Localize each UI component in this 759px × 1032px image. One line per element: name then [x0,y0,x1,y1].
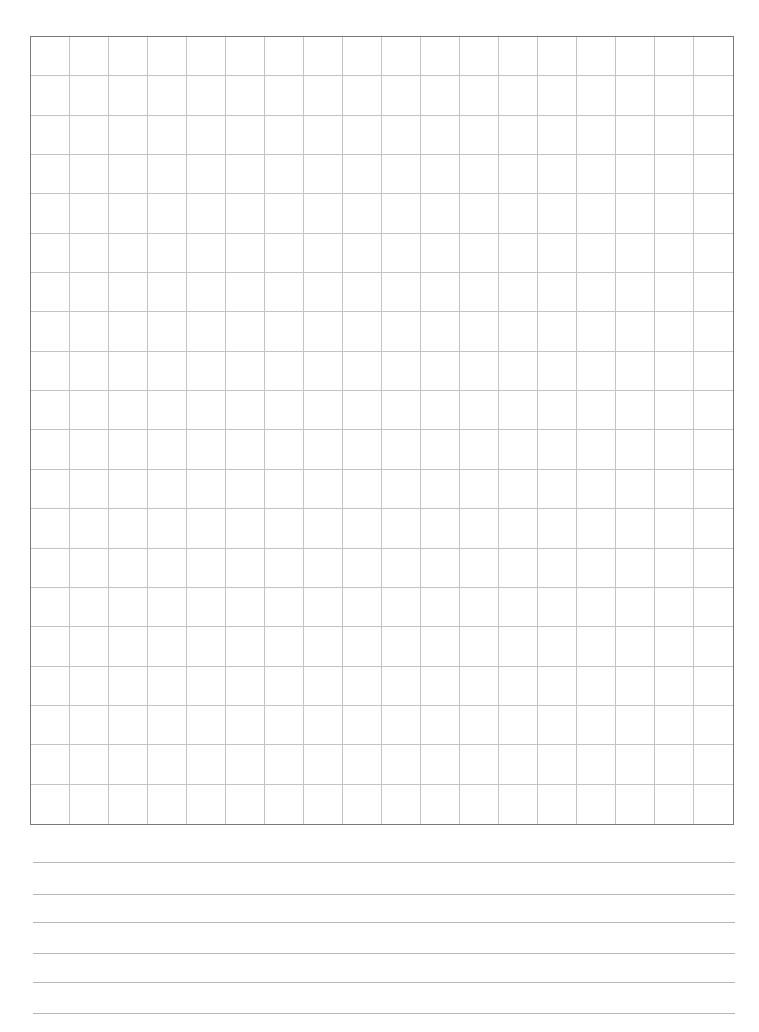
grid-cell [187,430,226,469]
grid-cell [265,667,304,706]
grid-cell [655,352,694,391]
grid-cell [304,352,343,391]
grid-cell [694,194,733,233]
grid-cell [460,76,499,115]
grid-cell [148,194,187,233]
grid-cell [109,588,148,627]
grid-cell [226,549,265,588]
grid-cell [616,116,655,155]
grid-cell [499,155,538,194]
grid-cell [499,234,538,273]
grid-cell [538,76,577,115]
grid-cell [499,116,538,155]
grid-cell [70,116,109,155]
grid-cell [70,352,109,391]
grid-cell [499,706,538,745]
writing-line [33,862,735,863]
grid-cell [343,312,382,351]
grid-cell [538,627,577,666]
grid-cell [655,549,694,588]
grid-cell [421,312,460,351]
grid-cell [460,470,499,509]
grid-cell [577,352,616,391]
grid-cell [421,234,460,273]
grid-cell [343,745,382,784]
grid-cell [70,312,109,351]
graph-grid [30,36,734,825]
grid-cell [616,37,655,76]
grid-cell [694,391,733,430]
grid-cell [499,785,538,824]
grid-cell [460,273,499,312]
grid-cell [304,273,343,312]
grid-cell [148,549,187,588]
grid-cell [109,312,148,351]
grid-cell [226,155,265,194]
grid-cell [187,155,226,194]
grid-cell [421,509,460,548]
writing-line [33,953,735,954]
grid-cell [226,194,265,233]
grid-cell [187,273,226,312]
grid-cell [616,549,655,588]
grid-cell [265,588,304,627]
grid-cell [382,116,421,155]
grid-cell [499,667,538,706]
grid-cell [655,76,694,115]
grid-cell [499,430,538,469]
grid-cell [265,273,304,312]
grid-cell [694,706,733,745]
grid-cell [577,549,616,588]
grid-cell [343,470,382,509]
grid-cell [460,509,499,548]
grid-cell [109,509,148,548]
grid-cell [304,706,343,745]
grid-cell [655,667,694,706]
grid-cell [499,627,538,666]
grid-cell [421,745,460,784]
grid-cell [70,627,109,666]
grid-cell [538,352,577,391]
grid-cell [577,76,616,115]
grid-cell [694,234,733,273]
grid-cell [109,549,148,588]
grid-cell [187,234,226,273]
grid-cell [460,116,499,155]
grid-cell [148,509,187,548]
grid-cell [265,509,304,548]
grid-cell [694,588,733,627]
grid-cell [70,430,109,469]
grid-cell [187,745,226,784]
grid-cell [616,667,655,706]
grid-cell [265,430,304,469]
grid-cell [421,352,460,391]
grid-cell [577,509,616,548]
grid-cell [70,273,109,312]
grid-cell [226,116,265,155]
grid-cell [70,549,109,588]
grid-cell [382,312,421,351]
grid-cell [226,706,265,745]
grid-cell [382,667,421,706]
grid-cell [655,116,694,155]
grid-cell [499,745,538,784]
grid-cell [265,76,304,115]
grid-cell [460,706,499,745]
grid-cell [694,549,733,588]
grid-cell [616,745,655,784]
grid-cell [343,549,382,588]
writing-line [33,922,735,923]
grid-cell [187,391,226,430]
grid-cell [382,234,421,273]
grid-cell [70,509,109,548]
grid-cell [304,470,343,509]
grid-cell [616,234,655,273]
grid-cell [616,352,655,391]
grid-cell [655,627,694,666]
grid-cell [31,667,70,706]
grid-cell [577,37,616,76]
grid-cell [382,470,421,509]
grid-cell [421,273,460,312]
grid-cell [382,509,421,548]
grid-cell [655,430,694,469]
